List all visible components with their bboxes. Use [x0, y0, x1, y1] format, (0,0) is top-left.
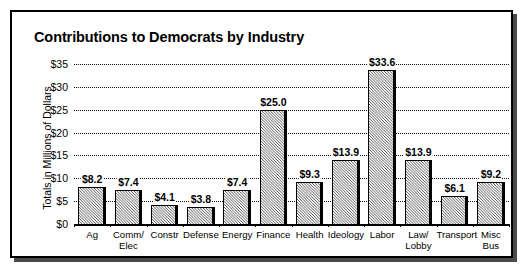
bar-slot: $9.3	[296, 64, 324, 224]
x-axis-tick-mark	[509, 224, 510, 227]
bar-slot: $25.0	[260, 64, 288, 224]
bar[interactable]	[477, 182, 505, 224]
bar-value-label: $13.9	[332, 146, 360, 158]
bar-value-label: $9.2	[480, 168, 502, 180]
x-axis-tick-mark	[147, 224, 148, 227]
bar-value-label: $3.8	[190, 193, 212, 205]
x-axis-tick-mark	[74, 224, 75, 227]
bar-slot: $7.4	[223, 64, 251, 224]
bar[interactable]	[296, 182, 324, 225]
bar[interactable]	[260, 110, 288, 224]
bar-slot: $9.2	[477, 64, 505, 224]
bar[interactable]	[441, 196, 469, 224]
x-axis-label: Health	[292, 230, 328, 241]
x-axis-tick-mark	[292, 224, 293, 227]
bar[interactable]	[368, 70, 396, 224]
x-axis-tick-mark	[364, 224, 365, 227]
bar-value-label: $9.3	[298, 168, 320, 180]
x-axis-label: Finance	[255, 230, 291, 241]
y-axis-tick-label: $35	[28, 58, 68, 70]
bar-slot: $13.9	[332, 64, 360, 224]
y-axis-tick-label: $20	[28, 127, 68, 139]
y-axis-tick-label: $25	[28, 104, 68, 116]
x-axis-label: Energy	[219, 230, 255, 241]
x-axis-tick-mark	[219, 224, 220, 227]
bar-value-label: $7.4	[226, 176, 248, 188]
x-axis-label: Misc Bus	[473, 230, 509, 251]
chart-title: Contributions to Democrats by Industry	[34, 29, 304, 45]
y-axis-tick-label: $10	[28, 172, 68, 184]
bar-value-label: $4.1	[153, 191, 175, 203]
bar[interactable]	[332, 160, 360, 224]
bar-slot: $7.4	[115, 64, 143, 224]
bar-slot: $13.9	[405, 64, 433, 224]
bar[interactable]	[115, 190, 143, 224]
x-axis-label: Comm/ Elec	[110, 230, 146, 251]
x-axis-label: Constr	[147, 230, 183, 241]
bar[interactable]	[405, 160, 433, 224]
chart-figure: Contributions to Democrats by Industry T…	[0, 0, 521, 272]
chart-frame: Contributions to Democrats by Industry T…	[10, 10, 513, 258]
y-axis-tick-label: $15	[28, 149, 68, 161]
x-axis-label: Defense	[183, 230, 219, 241]
bar-slot: $6.1	[441, 64, 469, 224]
x-axis-tick-mark	[328, 224, 329, 227]
y-axis-tick-label: $0	[28, 218, 68, 230]
bar-value-label: $7.4	[117, 176, 139, 188]
bar-value-label: $33.6	[368, 56, 396, 68]
bar-slot: $4.1	[151, 64, 179, 224]
x-axis-tick-mark	[437, 224, 438, 227]
bar[interactable]	[78, 187, 106, 224]
bar-slot: $3.8	[187, 64, 215, 224]
x-axis-tick-mark	[183, 224, 184, 227]
x-axis-label: Transport	[437, 230, 473, 241]
bar-value-label: $25.0	[259, 96, 287, 108]
bar-slot: $8.2	[78, 64, 106, 224]
x-axis-tick-mark	[110, 224, 111, 227]
bar[interactable]	[187, 207, 215, 224]
bar-slot: $33.6	[368, 64, 396, 224]
x-axis-label: Ideology	[328, 230, 364, 241]
x-axis-label: Law/ Lobby	[400, 230, 436, 251]
x-axis-tick-mark	[473, 224, 474, 227]
bar[interactable]	[151, 205, 179, 224]
x-axis-label: Ag	[74, 230, 110, 241]
bar[interactable]	[223, 190, 251, 224]
x-axis-label: Labor	[364, 230, 400, 241]
x-axis-tick-mark	[255, 224, 256, 227]
bar-value-label: $8.2	[81, 173, 103, 185]
y-axis-tick-label: $5	[28, 195, 68, 207]
bar-value-label: $6.1	[443, 182, 465, 194]
plot-area: $0$5$10$15$20$25$30$35 $8.2$7.4$4.1$3.8$…	[74, 64, 509, 224]
y-axis-tick-label: $30	[28, 81, 68, 93]
bars-group: $8.2$7.4$4.1$3.8$7.4$25.0$9.3$13.9$33.6$…	[74, 64, 509, 224]
x-axis-tick-mark	[400, 224, 401, 227]
bar-value-label: $13.9	[404, 146, 432, 158]
